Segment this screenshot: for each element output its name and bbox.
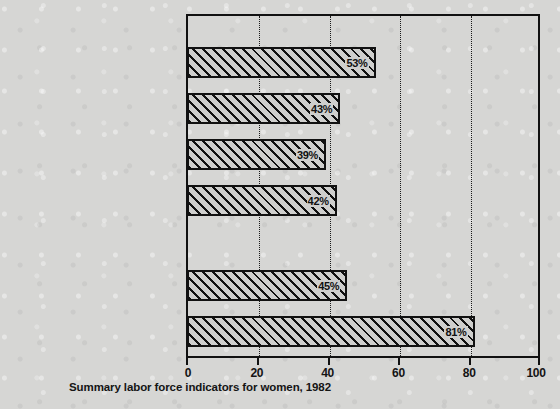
x-tick-100 <box>538 358 540 365</box>
x-tick-label-100: 100 <box>526 366 545 380</box>
bar-row: 43% <box>188 93 538 124</box>
plot-area: 53% 43% 39% 42% 45% <box>186 14 540 358</box>
bar-chart: 53% 43% 39% 42% 45% <box>0 0 560 409</box>
x-tick-20 <box>257 358 259 365</box>
bar-row: 81% <box>188 316 538 347</box>
bar-row: 53% <box>188 47 538 78</box>
x-tick-0 <box>186 358 188 365</box>
x-axis: 0 20 40 60 80 100 <box>186 358 540 366</box>
x-tick-80 <box>469 358 471 365</box>
bar-value-label: 42% <box>307 195 330 207</box>
bar-the-employed[interactable]: 43% <box>187 93 340 124</box>
chart-caption: Summary labor force indicators for women… <box>0 381 400 393</box>
bar-row: 42% <box>188 185 538 216</box>
bar-value-label: 53% <box>345 57 368 69</box>
bar-civilian-noninstitutional-population[interactable]: 53% <box>187 47 376 78</box>
bar-row: 45% <box>188 270 538 301</box>
bar-value-label: 43% <box>310 103 333 115</box>
x-tick-label-80: 80 <box>463 366 476 380</box>
bar-the-unemployed[interactable]: 42% <box>187 185 337 216</box>
bar-clerical-workers[interactable]: 81% <box>187 316 475 347</box>
bar-professional-workers[interactable]: 45% <box>187 270 347 301</box>
bar-value-label: 81% <box>444 326 467 338</box>
x-tick-40 <box>328 358 330 365</box>
x-tick-label-0: 0 <box>185 366 191 380</box>
bar-row: 39% <box>188 139 538 170</box>
x-tick-label-40: 40 <box>321 366 334 380</box>
x-tick-60 <box>398 358 400 365</box>
bar-value-label: 39% <box>296 149 319 161</box>
x-tick-label-20: 20 <box>250 366 263 380</box>
x-tick-label-60: 60 <box>392 366 405 380</box>
bar-persons-employed-full-time[interactable]: 39% <box>187 139 326 170</box>
bar-value-label: 45% <box>317 280 340 292</box>
